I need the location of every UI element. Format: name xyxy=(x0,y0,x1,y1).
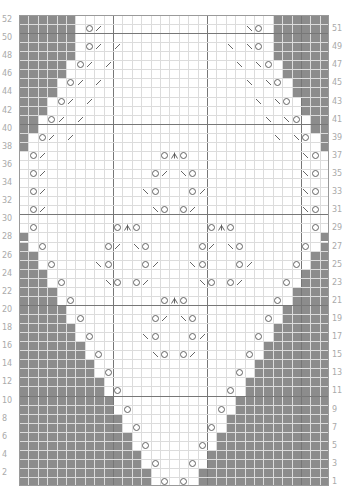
no-stitch-left xyxy=(19,69,66,78)
yarn-over-icon xyxy=(38,242,47,251)
ssk-icon xyxy=(245,42,254,51)
ssk-icon xyxy=(273,133,282,142)
yarn-over-icon xyxy=(273,78,282,87)
row-label-even: 50 xyxy=(2,33,18,42)
ssk-icon xyxy=(141,332,150,341)
grid-row-line xyxy=(19,305,329,306)
yarn-over-icon xyxy=(301,242,310,251)
grid-row-line xyxy=(19,142,329,143)
grid-row-line xyxy=(19,87,329,88)
row-label-odd: 47 xyxy=(332,60,342,69)
yarn-over-icon xyxy=(310,187,319,196)
row-label-odd: 19 xyxy=(332,314,342,323)
row-label-even: 34 xyxy=(2,178,18,187)
k2tog-icon xyxy=(113,242,122,251)
k2tog-icon xyxy=(75,115,84,124)
ssk-icon xyxy=(301,187,310,196)
grid-row-line xyxy=(19,269,329,270)
row-label-odd: 25 xyxy=(332,260,342,269)
yarn-over-icon xyxy=(151,314,160,323)
ssk-icon xyxy=(94,260,103,269)
row-label-odd: 21 xyxy=(332,296,342,305)
double-decrease-icon xyxy=(122,223,131,232)
no-stitch-right xyxy=(320,133,329,142)
yarn-over-icon xyxy=(85,332,94,341)
yarn-over-icon xyxy=(207,278,216,287)
row-label-odd: 35 xyxy=(332,169,342,178)
row-label-odd: 43 xyxy=(332,97,342,106)
yarn-over-icon xyxy=(179,205,188,214)
ssk-icon xyxy=(245,24,254,33)
no-stitch-right xyxy=(320,232,329,241)
yarn-over-icon xyxy=(207,423,216,432)
ssk-icon xyxy=(301,169,310,178)
k2tog-icon xyxy=(66,97,75,106)
yarn-over-icon xyxy=(151,332,160,341)
ssk-icon xyxy=(141,187,150,196)
no-stitch-left xyxy=(19,377,104,386)
k2tog-icon xyxy=(85,97,94,106)
no-stitch-left xyxy=(19,242,28,251)
yarn-over-icon xyxy=(226,278,235,287)
row-label-even: 32 xyxy=(2,196,18,205)
k2tog-icon xyxy=(94,42,103,51)
no-stitch-right xyxy=(282,60,329,69)
k2tog-icon xyxy=(235,278,244,287)
no-stitch-left xyxy=(19,142,28,151)
k2tog-icon xyxy=(47,133,56,142)
no-stitch-right xyxy=(320,142,329,151)
yarn-over-icon xyxy=(179,296,188,305)
no-stitch-left xyxy=(19,423,122,432)
yarn-over-icon xyxy=(188,314,197,323)
row-label-odd: 45 xyxy=(332,78,342,87)
row-label-odd: 13 xyxy=(332,368,342,377)
yarn-over-icon xyxy=(235,242,244,251)
yarn-over-icon xyxy=(198,260,207,269)
yarn-over-icon xyxy=(66,78,75,87)
row-label-odd: 29 xyxy=(332,223,342,232)
grid-row-line xyxy=(19,169,329,170)
yarn-over-icon xyxy=(245,350,254,359)
no-stitch-left xyxy=(19,232,28,241)
yarn-over-icon xyxy=(132,278,141,287)
ssk-icon xyxy=(198,278,207,287)
ssk-icon xyxy=(179,169,188,178)
yarn-over-icon xyxy=(66,296,75,305)
yarn-over-icon xyxy=(28,169,37,178)
yarn-over-icon xyxy=(104,242,113,251)
row-label-even: 22 xyxy=(2,287,18,296)
ssk-icon xyxy=(263,78,272,87)
row-label-even: 10 xyxy=(2,396,18,405)
no-stitch-left xyxy=(19,60,66,69)
yarn-over-icon xyxy=(151,169,160,178)
grid-row-line xyxy=(19,69,329,70)
grid-row-line xyxy=(19,441,329,442)
grid-row-line xyxy=(19,205,329,206)
k2tog-icon xyxy=(141,278,150,287)
yarn-over-icon xyxy=(104,260,113,269)
yarn-over-icon xyxy=(263,314,272,323)
grid-row-line xyxy=(19,477,329,478)
row-label-even: 46 xyxy=(2,69,18,78)
row-label-even: 28 xyxy=(2,232,18,241)
grid-row-line xyxy=(19,332,329,333)
yarn-over-icon xyxy=(188,169,197,178)
yarn-over-icon xyxy=(310,151,319,160)
grid-row-line xyxy=(19,423,329,424)
yarn-over-icon xyxy=(160,477,169,486)
grid-row-line xyxy=(19,124,329,125)
ssk-icon xyxy=(282,115,291,124)
grid-row-line xyxy=(19,260,329,261)
grid-row-line xyxy=(19,468,329,469)
row-label-even: 52 xyxy=(2,15,18,24)
k2tog-icon xyxy=(66,133,75,142)
yarn-over-icon xyxy=(57,97,66,106)
yarn-over-icon xyxy=(179,477,188,486)
grid-row-line xyxy=(19,341,329,342)
k2tog-icon xyxy=(38,187,47,196)
yarn-over-icon xyxy=(132,423,141,432)
row-label-even: 40 xyxy=(2,124,18,133)
yarn-over-icon xyxy=(198,242,207,251)
ssk-icon xyxy=(226,42,235,51)
grid-row-line xyxy=(19,214,329,215)
